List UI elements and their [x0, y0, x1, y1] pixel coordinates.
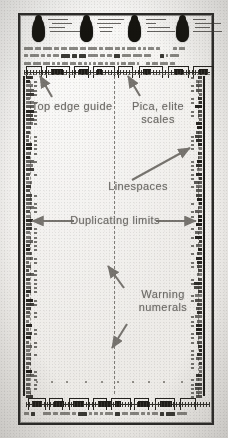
ruler-mark — [195, 236, 202, 239]
ruler-mark — [198, 110, 202, 113]
ruler-numeral — [191, 161, 194, 163]
ruler-mark — [199, 93, 202, 96]
scale-tick — [125, 402, 126, 407]
ruler-mark — [196, 357, 202, 360]
ruler-numeral — [34, 245, 37, 247]
ruler-mark — [198, 156, 202, 159]
ruler-mark — [26, 387, 30, 390]
ruler-mark — [199, 177, 202, 180]
ruler-mark — [199, 349, 202, 352]
ruler-mark — [196, 189, 202, 192]
ruler-mark — [197, 261, 202, 264]
ruler-mark — [196, 324, 202, 327]
ruler-mark — [26, 231, 30, 234]
ruler-mark — [26, 248, 30, 251]
ruler-mark — [26, 219, 33, 222]
scale-tick — [41, 402, 42, 407]
ruler-mark — [197, 252, 202, 255]
ruler-mark — [195, 315, 202, 318]
ruler-mark — [26, 273, 34, 276]
scale-tick — [65, 402, 66, 407]
ruler-numeral — [34, 388, 37, 390]
ruler-numeral — [34, 287, 37, 289]
ruler-numeral — [191, 211, 194, 213]
ruler-mark — [26, 210, 30, 213]
ruler-numeral — [34, 304, 37, 306]
ruler-mark — [26, 139, 29, 142]
ruler-mark — [26, 391, 31, 394]
ruler-numeral — [34, 81, 37, 83]
ruler-numeral — [34, 90, 37, 92]
label-top-edge-guide: Top edge guide — [26, 100, 118, 113]
ruler-mark — [196, 164, 202, 167]
ruler-mark — [26, 252, 32, 255]
scale-tick — [143, 402, 144, 407]
guide-dot — [101, 381, 103, 383]
microtext-row — [24, 47, 210, 52]
ruler-mark — [195, 210, 202, 213]
ruler-mark — [26, 143, 32, 146]
scale-tick — [86, 402, 87, 407]
guide-dot — [66, 381, 68, 383]
scale-tick — [164, 402, 165, 407]
ruler-numeral — [191, 148, 194, 150]
scale-tick — [44, 402, 45, 407]
ruler-mark — [26, 206, 34, 209]
ruler-numeral — [191, 388, 194, 390]
scale-tick — [32, 402, 33, 407]
ruler-numeral — [191, 144, 194, 146]
ruler-mark — [26, 374, 34, 377]
ruler-mark — [196, 80, 202, 83]
ruler-numeral — [34, 119, 37, 121]
ruler-mark — [26, 357, 31, 360]
ruler-mark — [197, 320, 202, 323]
scale-tick — [194, 402, 195, 407]
scale-tick — [155, 402, 156, 407]
scale-tick — [35, 402, 36, 407]
ruler-mark — [198, 152, 202, 155]
ruler-numeral — [191, 253, 194, 255]
scale-tick — [56, 402, 57, 407]
ruler-numeral — [191, 358, 194, 360]
ruler-mark — [198, 278, 202, 281]
ruler-mark — [197, 273, 202, 276]
scale-tick — [167, 402, 168, 407]
ruler-mark — [195, 387, 202, 390]
microtext-row — [24, 54, 210, 59]
ruler-mark — [196, 122, 202, 125]
guide-dot — [117, 381, 119, 383]
scale-tick — [116, 402, 117, 407]
ruler-numeral — [34, 371, 37, 373]
ruler-numeral — [191, 237, 194, 239]
scale-tick — [206, 402, 207, 407]
ruler-numeral — [34, 262, 37, 264]
ruler-mark — [195, 383, 202, 386]
ruler-numeral — [191, 203, 194, 205]
ruler-mark — [196, 223, 202, 226]
tab-microtext — [96, 19, 126, 41]
ruler-mark — [197, 160, 202, 163]
ruler-numeral — [34, 115, 37, 117]
tab-microtext — [192, 19, 222, 41]
scale-tick — [50, 402, 51, 407]
ruler-mark — [199, 202, 202, 205]
top-scale-bar — [24, 66, 210, 79]
ruler-numeral — [34, 258, 37, 260]
ruler-numeral — [191, 283, 194, 285]
scale-tick — [131, 402, 132, 407]
ruler-mark — [26, 366, 29, 369]
ruler-mark — [197, 341, 202, 344]
tab-row — [18, 16, 214, 46]
ruler-numeral — [34, 375, 37, 377]
ruler-mark — [26, 89, 34, 92]
scale-tick — [152, 402, 153, 407]
label-warning-numerals: Warning numerals — [124, 288, 202, 314]
ruler-mark — [198, 76, 202, 79]
scale-tick — [92, 402, 93, 407]
ruler-numeral — [191, 228, 194, 230]
ruler-mark — [195, 105, 202, 108]
ruler-mark — [195, 135, 202, 138]
ruler-numeral — [191, 354, 194, 356]
ruler-mark — [196, 328, 202, 331]
ruler-mark — [26, 240, 33, 243]
